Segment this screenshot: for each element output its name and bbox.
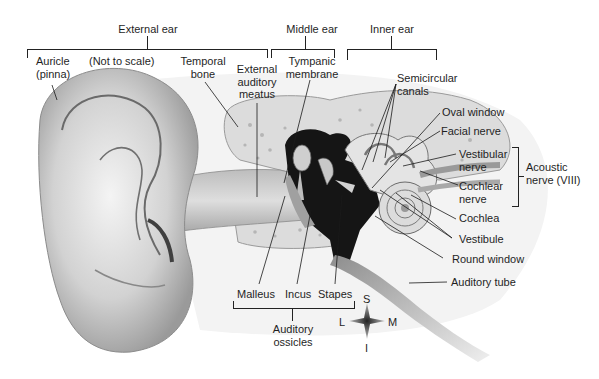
label-vestibular-nerve: Vestibular nerve <box>459 148 507 173</box>
compass-inferior: I <box>365 342 368 355</box>
label-acoustic-nerve: Acoustic nerve (VIII) <box>526 161 580 186</box>
label-cochlear-nerve: Cochlear nerve <box>459 180 503 205</box>
bracket-stem <box>292 309 293 321</box>
region-middle-ear: Middle ear <box>282 23 342 36</box>
compass-superior: S <box>363 293 370 306</box>
label-semicircular-canals: Semicircular canals <box>397 72 458 97</box>
bracket-ossicles <box>233 301 355 309</box>
note-not-to-scale: (Not to scale) <box>89 55 154 68</box>
compass-medial: M <box>388 316 397 329</box>
label-tympanic-membrane: Tympanic membrane <box>284 55 340 80</box>
label-stapes: Stapes <box>318 288 352 301</box>
bracket-stem <box>518 176 524 177</box>
bracket-acoustic-nerve <box>512 147 519 207</box>
label-round-window: Round window <box>452 253 524 266</box>
region-external-ear: External ear <box>118 23 178 36</box>
label-vestibule: Vestibule <box>459 233 504 246</box>
label-auricle: Auricle (pinna) <box>36 55 70 80</box>
label-oval-window: Oval window <box>442 106 504 119</box>
label-cochlea: Cochlea <box>459 212 499 225</box>
label-incus: Incus <box>285 288 311 301</box>
label-temporal-bone: Temporal bone <box>178 55 228 80</box>
label-external-auditory-meatus: External auditory meatus <box>232 63 282 101</box>
bracket-inner-ear <box>347 49 437 60</box>
bracket-stem <box>391 36 392 49</box>
bracket-stem <box>147 36 148 49</box>
bracket-stem <box>305 36 306 49</box>
label-auditory-tube: Auditory tube <box>451 276 516 289</box>
region-inner-ear: Inner ear <box>362 23 422 36</box>
label-auditory-ossicles: Auditory ossicles <box>267 323 319 348</box>
auricle-shape <box>39 68 198 352</box>
compass-lateral: L <box>339 316 345 329</box>
label-malleus: Malleus <box>237 288 275 301</box>
label-facial-nerve: Facial nerve <box>441 125 501 138</box>
